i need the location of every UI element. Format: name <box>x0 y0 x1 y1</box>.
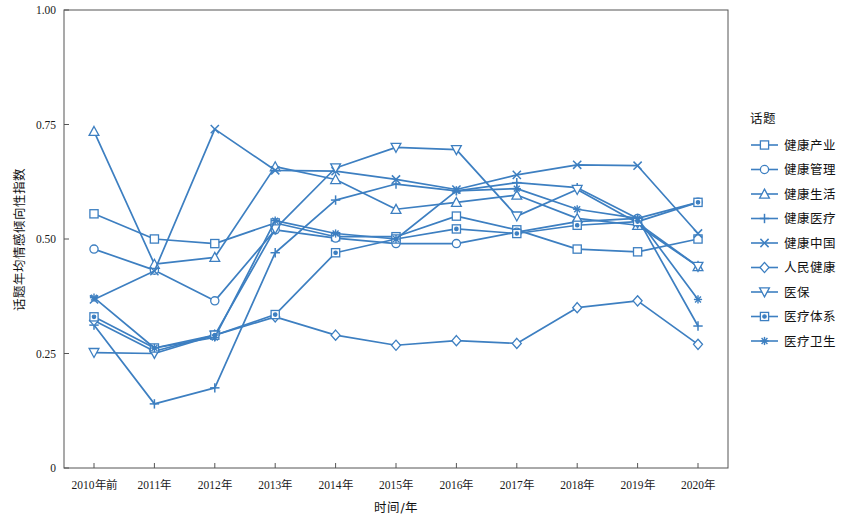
legend-item-label: 健康管理 <box>784 162 836 177</box>
line-chart: 00.250.500.751.00 2010年前2011年2012年2013年2… <box>0 0 841 522</box>
legend-item-健康管理[interactable]: 健康管理 <box>751 162 836 177</box>
data-point-square-dot <box>515 232 518 235</box>
series-line <box>94 183 698 404</box>
series-健康产业 <box>90 210 702 256</box>
legend-item-人民健康[interactable]: 人民健康 <box>751 260 836 275</box>
data-point-square <box>90 210 98 218</box>
x-tick-label: 2018年 <box>560 478 594 491</box>
y-tick-label: 0.50 <box>36 233 56 245</box>
data-series-layer <box>89 125 703 409</box>
legend-item-label: 健康生活 <box>784 187 836 202</box>
series-line <box>94 202 698 300</box>
data-point-square-dot <box>576 224 579 227</box>
data-point-square-dot <box>274 313 277 316</box>
data-point-square-dot <box>696 201 699 204</box>
chart-legend: 话题健康产业健康管理健康生活健康医疗健康中国人民健康医保医疗体系医疗卫生 <box>750 111 836 349</box>
x-axis-ticks: 2010年前2011年2012年2013年2014年2015年2016年2017… <box>72 463 716 491</box>
data-point-diamond <box>760 262 769 272</box>
series-line <box>94 202 698 348</box>
legend-item-label: 健康医疗 <box>784 211 836 226</box>
data-point-square <box>211 239 219 247</box>
legend-item-label: 健康产业 <box>784 138 836 153</box>
data-point-square <box>634 248 642 256</box>
x-tick-label: 2017年 <box>500 478 534 491</box>
data-point-circle <box>211 297 219 305</box>
data-point-square <box>452 212 460 220</box>
x-tick-label: 2016年 <box>439 478 473 491</box>
data-point-diamond <box>512 338 521 348</box>
x-tick-label: 2011年 <box>138 478 172 491</box>
data-point-diamond <box>331 330 340 340</box>
legend-item-label: 医疗体系 <box>784 309 836 324</box>
chart-root: 00.250.500.751.00 2010年前2011年2012年2013年2… <box>0 0 841 522</box>
data-point-square-dot <box>763 315 766 318</box>
data-point-triangle-up <box>89 126 99 135</box>
legend-item-健康产业[interactable]: 健康产业 <box>751 138 836 153</box>
data-point-circle <box>452 239 460 247</box>
data-point-square <box>150 235 158 243</box>
y-tick-label: 0.25 <box>36 348 56 360</box>
legend-item-健康中国[interactable]: 健康中国 <box>751 236 836 251</box>
data-point-triangle-down <box>512 212 522 221</box>
data-point-diamond <box>573 303 582 313</box>
data-point-square <box>573 245 581 253</box>
y-tick-label: 0 <box>50 462 56 474</box>
legend-item-健康医疗[interactable]: 健康医疗 <box>751 211 836 226</box>
data-point-circle <box>760 165 768 173</box>
x-tick-label: 2013年 <box>258 478 292 491</box>
data-point-diamond <box>392 340 401 350</box>
x-tick-label: 2010年前 <box>72 478 117 491</box>
legend-item-label: 医保 <box>784 285 810 300</box>
legend-item-label: 健康中国 <box>784 236 836 251</box>
x-axis-title: 时间/年 <box>374 500 417 515</box>
y-tick-label: 1.00 <box>36 4 56 16</box>
y-axis-title: 话题年均情感倾向性指数 <box>12 168 27 311</box>
x-tick-label: 2020年 <box>681 478 715 491</box>
legend-item-label: 人民健康 <box>784 260 836 275</box>
y-tick-label: 0.75 <box>36 119 56 131</box>
data-point-circle <box>90 245 98 253</box>
legend-item-医疗卫生[interactable]: 医疗卫生 <box>751 334 836 349</box>
data-point-diamond <box>452 336 461 346</box>
data-point-square-dot <box>455 227 458 230</box>
data-point-square-dot <box>92 315 95 318</box>
data-point-diamond <box>694 339 703 349</box>
data-point-square-dot <box>334 251 337 254</box>
legend-item-健康生活[interactable]: 健康生活 <box>751 187 836 202</box>
x-tick-label: 2014年 <box>319 478 353 491</box>
series-人民健康 <box>90 296 703 357</box>
x-tick-label: 2012年 <box>198 478 232 491</box>
x-tick-label: 2015年 <box>379 478 413 491</box>
x-tick-label: 2019年 <box>621 478 655 491</box>
legend-title: 话题 <box>750 111 776 126</box>
legend-item-医疗体系[interactable]: 医疗体系 <box>751 309 836 324</box>
data-point-diamond <box>633 296 642 306</box>
data-point-square <box>760 141 768 149</box>
legend-item-label: 医疗卫生 <box>784 334 836 349</box>
legend-item-医保[interactable]: 医保 <box>751 285 810 300</box>
